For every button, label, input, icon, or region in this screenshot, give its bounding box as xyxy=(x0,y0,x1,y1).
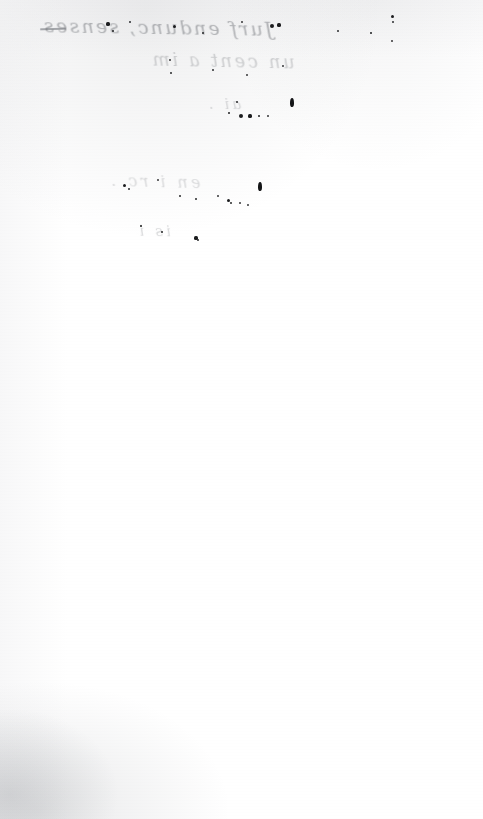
bleed-line-3: ai . xyxy=(206,95,241,113)
bleed-line-4: en i rc . xyxy=(108,171,201,192)
bleed-through-text-block: Jurf endunc, senses un cent a im ai . en… xyxy=(0,0,483,270)
bleed-line-2: un cent a im xyxy=(150,48,295,72)
bleed-line-5: is i xyxy=(136,222,171,241)
bleed-line-1: Jurf endunc, senses xyxy=(42,14,273,40)
scanned-page: Jurf endunc, senses un cent a im ai . en… xyxy=(0,0,483,819)
